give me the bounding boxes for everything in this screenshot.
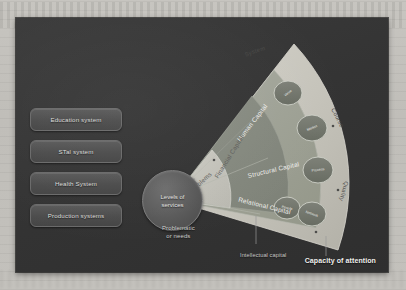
sidebar-item-education-system[interactable]: Education system	[30, 108, 122, 131]
background-text-bottom	[0, 270, 406, 288]
systems-list: Education system STal system Health Syst…	[30, 108, 120, 236]
outer-node[interactable]: Value	[274, 81, 302, 105]
caption-capacity-of-attention: Capacity of attention	[305, 257, 376, 264]
outer-node[interactable]: Process	[303, 157, 333, 183]
system-label: STal system	[58, 148, 93, 155]
sidebar-item-health-system[interactable]: Health System	[30, 172, 122, 195]
system-label: Education system	[50, 116, 101, 123]
hub-label-line1: Levels of	[160, 193, 184, 201]
callout-problematic-line2: or needs	[162, 232, 195, 240]
sidebar-item-stal-system[interactable]: STal system	[30, 140, 122, 163]
presentation-slide: Value Market Process People Network	[16, 18, 388, 272]
outer-node[interactable]: Market	[297, 115, 327, 141]
outer-node[interactable]: Network	[298, 202, 326, 226]
hub-label-line2: services	[161, 201, 183, 209]
arc-label-system: System	[244, 45, 266, 58]
system-label: Production systems	[48, 212, 105, 219]
sidebar-item-production-systems[interactable]: Production systems	[30, 204, 122, 227]
callout-problematic-line1: Problematic	[162, 224, 195, 232]
callout-problematic-or-needs: Problematic or needs	[162, 224, 195, 240]
system-label: Health System	[55, 180, 97, 187]
screenshot-stage: Value Market Process People Network	[0, 0, 406, 290]
hub-levels-of-services[interactable]: Levels of services	[142, 170, 203, 231]
callout-intellectual-capital: Intellectual capital	[240, 252, 286, 258]
